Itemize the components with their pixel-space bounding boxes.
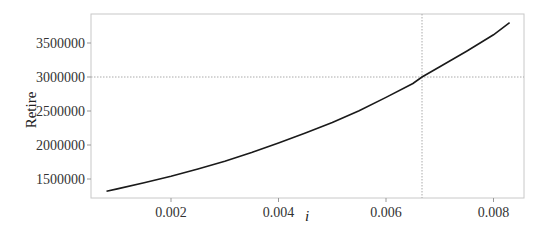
y-tick-label: 3000000 bbox=[36, 70, 85, 85]
y-tick-label: 2500000 bbox=[36, 104, 85, 119]
x-tick-label: 0.004 bbox=[263, 205, 295, 220]
y-tick-label: 3500000 bbox=[36, 36, 85, 51]
plot-frame bbox=[91, 14, 524, 198]
x-tick-label: 0.008 bbox=[478, 205, 510, 220]
x-axis-ticks: 0.0020.0040.0060.008 bbox=[155, 198, 509, 220]
y-axis-ticks: 15000002000000250000030000003500000 bbox=[36, 36, 91, 187]
y-tick-label: 1500000 bbox=[36, 172, 85, 187]
reference-lines bbox=[91, 14, 524, 198]
x-tick-label: 0.002 bbox=[155, 205, 187, 220]
retire-vs-i-chart: 15000002000000250000030000003500000 0.00… bbox=[0, 0, 553, 228]
retire-curve bbox=[107, 23, 510, 192]
y-tick-label: 2000000 bbox=[36, 138, 85, 153]
x-axis-label: i bbox=[305, 208, 309, 224]
x-tick-label: 0.006 bbox=[370, 205, 402, 220]
y-axis-label: Retire bbox=[23, 91, 39, 128]
